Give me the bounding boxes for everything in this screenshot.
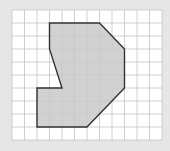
grid-polygon-figure [0, 0, 170, 151]
